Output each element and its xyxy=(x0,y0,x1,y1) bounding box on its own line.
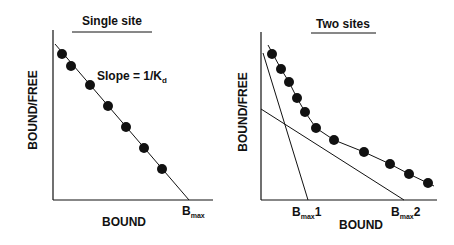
x-axis-label: BOUND xyxy=(339,218,383,232)
bmax1-label: Bmax1 xyxy=(292,205,322,220)
y-axis-label: BOUND/FREE xyxy=(236,72,250,151)
two-sites-panel: Two sites BOUND/FREE BOUND Bmax1 Bmax2 xyxy=(236,17,437,232)
scatchard-plots: Single site Slope = 1/Kd BOUND/FREE BOUN… xyxy=(0,0,454,245)
y-axis-label: BOUND/FREE xyxy=(26,70,40,149)
fit-curve xyxy=(268,45,434,186)
bmax-label: Bmax xyxy=(182,204,205,219)
x-axis-label: BOUND xyxy=(102,215,146,229)
high-affinity-line xyxy=(263,53,308,200)
slope-annotation: Slope = 1/Kd xyxy=(97,69,167,85)
single-site-title: Single site xyxy=(82,14,142,28)
two-sites-title: Two sites xyxy=(316,17,370,31)
data-points xyxy=(267,49,433,188)
single-site-panel: Single site Slope = 1/Kd BOUND/FREE BOUN… xyxy=(26,14,213,229)
low-affinity-line xyxy=(261,109,404,200)
bmax2-label: Bmax2 xyxy=(391,205,421,220)
